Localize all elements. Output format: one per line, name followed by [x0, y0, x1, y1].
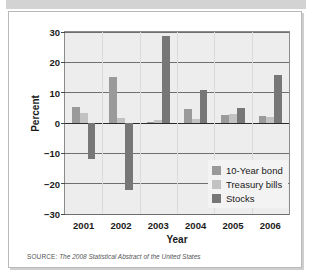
source-kicker: SOURCE:	[27, 253, 57, 260]
legend-label-treasury-bills: Treasury bills	[226, 179, 282, 190]
legend-item-10-year-bond: 10-Year bond	[212, 164, 283, 176]
source-note: SOURCE: The 2008 Statistical Abstract of…	[27, 253, 201, 260]
bar	[72, 107, 80, 123]
category-separator	[102, 32, 103, 214]
bar	[154, 120, 162, 123]
bar	[162, 36, 170, 123]
x-tick-label: 2004	[185, 220, 206, 231]
bar	[200, 90, 208, 123]
legend-swatch-stocks	[212, 194, 221, 203]
y-tick-label: 0	[55, 118, 60, 129]
y-tick-mark	[61, 214, 65, 215]
bar	[184, 109, 192, 123]
bar	[88, 123, 96, 159]
x-tick-label: 2006	[260, 220, 281, 231]
y-tick-label: −10	[44, 148, 60, 159]
legend-swatch-treasury-bills	[212, 180, 221, 189]
y-tick-label: 30	[49, 27, 60, 38]
legend-label-stocks: Stocks	[226, 193, 255, 204]
x-tick-label: 2005	[222, 220, 243, 231]
category-separator	[140, 32, 141, 214]
figure-root: Percent 3020100−10−20−302001200220032004…	[0, 0, 312, 278]
legend-item-treasury-bills: Treasury bills	[212, 178, 283, 190]
x-tick-label: 2003	[148, 220, 169, 231]
source-body: The 2008 Statistical Abstract of the Uni…	[59, 253, 200, 260]
y-tick-label: 20	[49, 57, 60, 68]
y-tick-mark	[61, 92, 65, 93]
y-tick-label: −20	[44, 178, 60, 189]
x-tick-label: 2002	[110, 220, 131, 231]
figure-border: Percent 3020100−10−20−302001200220032004…	[8, 11, 302, 268]
bar	[80, 113, 88, 123]
bar	[125, 123, 133, 190]
y-tick-mark	[61, 32, 65, 33]
y-tick-mark	[61, 62, 65, 63]
x-axis-title: Year	[64, 234, 290, 245]
bar	[192, 119, 200, 123]
bar	[147, 122, 155, 123]
bar	[117, 118, 125, 123]
chart-legend: 10-Year bond Treasury bills Stocks	[208, 160, 288, 208]
y-tick-label: 10	[49, 87, 60, 98]
page-top-band	[6, 0, 306, 9]
chart-container: Percent 3020100−10−20−302001200220032004…	[9, 12, 301, 267]
legend-item-stocks: Stocks	[212, 192, 283, 204]
y-tick-mark	[61, 123, 65, 124]
bar	[229, 114, 237, 123]
y-axis-title: Percent	[30, 74, 41, 154]
bar	[274, 75, 282, 123]
category-separator	[177, 32, 178, 214]
bar	[266, 117, 274, 123]
y-tick-mark	[61, 183, 65, 184]
legend-swatch-10-year-bond	[212, 166, 221, 175]
bar	[237, 108, 245, 123]
y-tick-label: −30	[44, 209, 60, 220]
x-tick-label: 2001	[73, 220, 94, 231]
legend-label-10-year-bond: 10-Year bond	[226, 165, 283, 176]
bar	[109, 77, 117, 123]
y-tick-mark	[61, 153, 65, 154]
bar	[259, 116, 267, 123]
bar	[221, 115, 229, 123]
